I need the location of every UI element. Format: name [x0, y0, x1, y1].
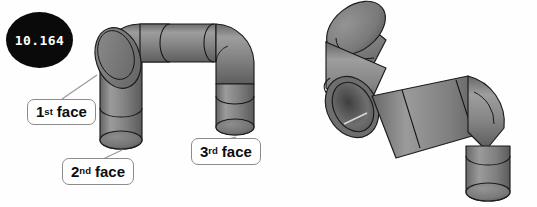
figure-10-164: 10.164 1stface 2ndface 3rdface	[0, 0, 290, 207]
figure-10-165: 10.165	[290, 0, 537, 207]
callout-ordinal: 1	[36, 104, 44, 119]
figure-plate: 10.164 1stface 2ndface 3rdface	[0, 0, 537, 207]
callout-second-face: 2ndface	[62, 158, 134, 185]
callout-word: face	[95, 164, 125, 179]
figure-number-badge-10-164: 10.164	[6, 12, 73, 68]
callout-first-face: 1stface	[27, 99, 96, 125]
pipe-assembly-illustration-right	[290, 0, 537, 207]
lower-leg-end-cap	[466, 183, 510, 201]
callout-third-face: 3rdface	[191, 138, 261, 165]
callout-word: face	[57, 104, 87, 119]
badge-label: 10.164	[15, 33, 64, 48]
callout-word: face	[222, 144, 252, 159]
third-face-end-cap	[216, 119, 254, 135]
leader-line-first-face	[62, 75, 97, 99]
second-face-end-cap	[100, 131, 142, 149]
callout-ordinal: 2	[71, 164, 79, 179]
callout-ordinal: 3	[200, 144, 208, 159]
